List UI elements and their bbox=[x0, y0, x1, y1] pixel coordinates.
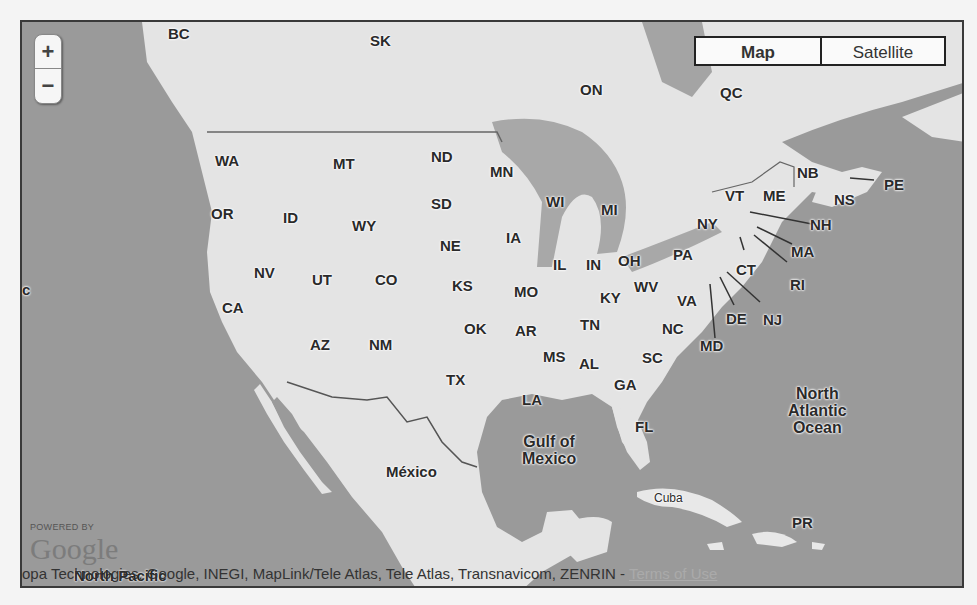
label-ms: MS bbox=[543, 349, 566, 364]
label-ia: IA bbox=[506, 230, 521, 245]
label-on: ON bbox=[580, 82, 603, 97]
map-type-map-button[interactable]: Map bbox=[694, 36, 822, 66]
label-ne: NE bbox=[440, 238, 461, 253]
zoom-control: + − bbox=[34, 34, 62, 104]
label-az: AZ bbox=[310, 337, 330, 352]
label-il: IL bbox=[553, 257, 566, 272]
label-north-atlantic-ocean: North Atlantic Ocean bbox=[788, 385, 847, 436]
label-nh: NH bbox=[810, 217, 832, 232]
label-wa: WA bbox=[215, 153, 239, 168]
map-tiles bbox=[22, 22, 964, 588]
label-ct: CT bbox=[736, 262, 756, 277]
label-atlantic-line3: Ocean bbox=[788, 419, 847, 436]
label-nj: NJ bbox=[763, 312, 782, 327]
map-type-control: Map Satellite bbox=[694, 36, 946, 66]
label-ns: NS bbox=[834, 192, 855, 207]
label-in: IN bbox=[586, 257, 601, 272]
label-wv: WV bbox=[634, 279, 658, 294]
label-ma: MA bbox=[791, 244, 814, 259]
label-sk: SK bbox=[370, 33, 391, 48]
label-or: OR bbox=[211, 206, 234, 221]
label-la: LA bbox=[522, 392, 542, 407]
label-tx: TX bbox=[446, 372, 465, 387]
label-nm: NM bbox=[369, 337, 392, 352]
terms-of-use-link[interactable]: Terms of Use bbox=[629, 565, 717, 582]
label-nv: NV bbox=[254, 265, 275, 280]
label-ks: KS bbox=[452, 278, 473, 293]
label-oh: OH bbox=[618, 253, 641, 268]
label-sd: SD bbox=[431, 196, 452, 211]
label-mt: MT bbox=[333, 156, 355, 171]
label-al: AL bbox=[579, 356, 599, 371]
label-gulf-line2: Mexico bbox=[522, 450, 576, 467]
label-pr: PR bbox=[792, 515, 813, 530]
label-va: VA bbox=[677, 293, 697, 308]
label-co: CO bbox=[375, 272, 398, 287]
label-bc: BC bbox=[168, 26, 190, 41]
label-ok: OK bbox=[464, 321, 487, 336]
label-nc: NC bbox=[662, 321, 684, 336]
map-viewport[interactable]: + − Map Satellite BC SK ON QC NB NS PE W… bbox=[20, 20, 964, 588]
label-atlantic-line1: North bbox=[788, 385, 847, 402]
label-gulf-of-mexico: Gulf of Mexico bbox=[522, 433, 576, 467]
label-pa: PA bbox=[673, 247, 693, 262]
zoom-out-button[interactable]: − bbox=[35, 69, 61, 102]
label-edge-c: c bbox=[22, 282, 30, 297]
label-ky: KY bbox=[600, 290, 621, 305]
powered-by-label: POWERED BY bbox=[30, 522, 94, 532]
label-ny: NY bbox=[697, 216, 718, 231]
label-nb: NB bbox=[797, 165, 819, 180]
label-mn: MN bbox=[490, 164, 513, 179]
label-wy: WY bbox=[352, 218, 376, 233]
label-qc: QC bbox=[720, 85, 743, 100]
label-id: ID bbox=[283, 210, 298, 225]
map-attribution: opa Technologies, Google, INEGI, MapLink… bbox=[22, 565, 717, 582]
label-vt: VT bbox=[725, 188, 744, 203]
label-mexico: México bbox=[386, 464, 437, 479]
label-atlantic-line2: Atlantic bbox=[788, 402, 847, 419]
label-mi: MI bbox=[601, 202, 618, 217]
label-tn: TN bbox=[580, 317, 600, 332]
attribution-text: opa Technologies, Google, INEGI, MapLink… bbox=[22, 565, 629, 582]
label-md: MD bbox=[700, 338, 723, 353]
label-fl: FL bbox=[635, 419, 653, 434]
label-ar: AR bbox=[515, 323, 537, 338]
label-ca: CA bbox=[222, 300, 244, 315]
label-gulf-line1: Gulf of bbox=[522, 433, 576, 450]
label-sc: SC bbox=[642, 350, 663, 365]
label-pe: PE bbox=[884, 177, 904, 192]
label-ri: RI bbox=[790, 277, 805, 292]
map-type-satellite-button[interactable]: Satellite bbox=[822, 36, 946, 66]
label-mo: MO bbox=[514, 284, 538, 299]
label-me: ME bbox=[763, 188, 786, 203]
label-ut: UT bbox=[312, 272, 332, 287]
label-wi: WI bbox=[546, 194, 564, 209]
zoom-in-button[interactable]: + bbox=[35, 35, 61, 69]
label-cuba: Cuba bbox=[654, 492, 683, 504]
label-nd: ND bbox=[431, 149, 453, 164]
label-ga: GA bbox=[614, 377, 637, 392]
label-de: DE bbox=[726, 311, 747, 326]
google-logo[interactable]: Google bbox=[30, 532, 118, 566]
